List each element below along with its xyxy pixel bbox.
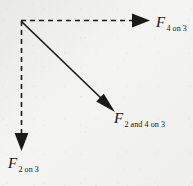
force-subscript: 2 and 4 on 3: [124, 120, 165, 129]
vector-f2on3: [15, 21, 29, 151]
resultant-solid-line: [22, 22, 104, 101]
right-arrowhead-icon: [132, 14, 150, 28]
force-vector-diagram: F4 on 3 F2 and 4 on 3 F2 on 3: [0, 0, 193, 186]
force-label-f4on3: F4 on 3: [156, 14, 186, 30]
force-label-f2on3: F2 on 3: [8, 155, 38, 171]
down-arrowhead-icon: [15, 133, 29, 151]
force-symbol: F: [114, 110, 123, 126]
force-symbol: F: [8, 155, 17, 171]
vector-f2and4on3: [22, 22, 116, 113]
force-subscript: 4 on 3: [166, 24, 187, 33]
force-label-f2and4on3: F2 and 4 on 3: [114, 110, 164, 126]
vector-f4on3: [21, 14, 150, 28]
force-symbol: F: [156, 14, 165, 30]
force-subscript: 2 on 3: [18, 165, 39, 174]
